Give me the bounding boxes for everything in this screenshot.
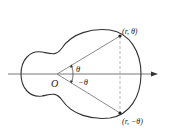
point-lower-label: (r, −θ) (122, 117, 143, 126)
angle-lower-label: −θ (78, 77, 88, 87)
angle-upper-label: θ (76, 64, 80, 74)
ray-upper (57, 36, 120, 74)
polar-symmetry-diagram: O θ −θ (r, θ) (r, −θ) (0, 0, 171, 133)
point-lower (118, 111, 121, 114)
ray-lower (57, 74, 120, 113)
axis-arrow-icon (151, 72, 158, 77)
origin-label: O (51, 78, 58, 89)
point-upper-label: (r, θ) (122, 27, 138, 36)
